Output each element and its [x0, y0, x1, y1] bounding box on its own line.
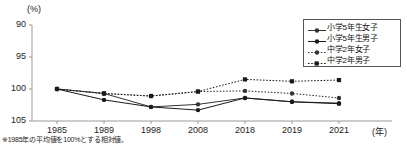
legend-item-label: 小学5年生男子 [327, 33, 378, 44]
x-tick-label-2008: 2008 [178, 125, 218, 135]
legend-item-2[interactable]: 中学2年女子 [307, 44, 397, 55]
legend-line-marker-icon [307, 22, 327, 33]
x-tick-label-2021: 2021 [319, 125, 359, 135]
legend-line-marker-icon [307, 33, 327, 44]
x-axis-unit-label: (年) [372, 125, 387, 138]
legend-line-marker-icon [307, 44, 327, 55]
legend-item-label: 中学2年女子 [327, 44, 370, 55]
legend-line-marker-icon [307, 55, 327, 66]
x-tick-label-1998: 1998 [131, 125, 171, 135]
legend-item-3[interactable]: 中学2年男子 [307, 55, 397, 66]
x-tick-label-2018: 2018 [225, 125, 265, 135]
series-3 [55, 77, 341, 98]
chart-series-layer [55, 77, 341, 112]
y-tick-label-105: 105 [0, 115, 26, 125]
legend-item-0[interactable]: 小学5年生女子 [307, 22, 397, 33]
legend-item-label: 中学2年男子 [327, 55, 370, 66]
y-tick-label-95: 95 [0, 51, 26, 61]
y-tick-label-90: 90 [0, 19, 26, 29]
chart-footnote: ※1985年の平均値を100%とする相対値。 [2, 134, 128, 144]
chart-legend: 小学5年生女子小学5年生男子中学2年女子中学2年男子 [303, 19, 401, 67]
legend-item-label: 小学5年生女子 [327, 22, 378, 33]
x-tick-label-2019: 2019 [272, 125, 312, 135]
line-chart: (%) 9095100105 1985198919982008201820192… [0, 0, 407, 147]
legend-item-1[interactable]: 小学5年生男子 [307, 33, 397, 44]
y-tick-label-100: 100 [0, 83, 26, 93]
